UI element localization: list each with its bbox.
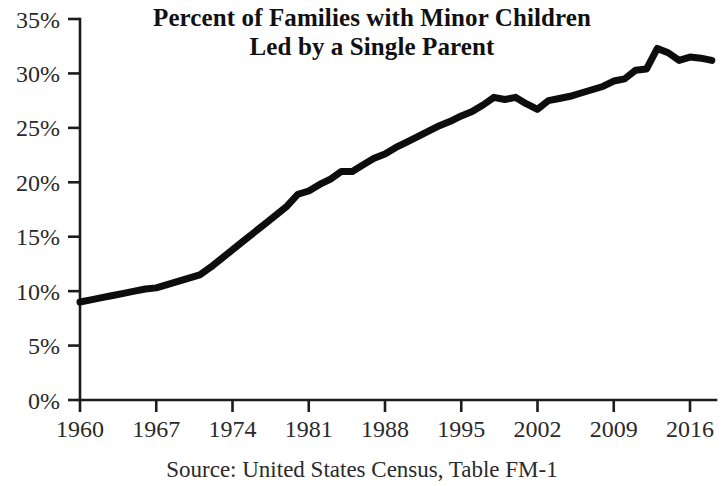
y-tick-label: 10% xyxy=(16,279,60,305)
y-tick-label: 30% xyxy=(16,61,60,87)
x-tick-label: 2002 xyxy=(514,416,562,442)
y-tick-label: 0% xyxy=(28,388,60,414)
chart-figure: Percent of Families with Minor Children … xyxy=(0,0,724,486)
x-axis-tick-labels: 196019671974198119881995200220092016 xyxy=(56,416,714,442)
chart-background xyxy=(0,0,724,486)
x-tick-label: 1995 xyxy=(437,416,485,442)
y-tick-label: 15% xyxy=(16,224,60,250)
y-tick-label: 25% xyxy=(16,115,60,141)
y-tick-label: 20% xyxy=(16,170,60,196)
x-tick-label: 1988 xyxy=(361,416,409,442)
x-tick-label: 2009 xyxy=(590,416,638,442)
x-tick-label: 1960 xyxy=(56,416,104,442)
source-note: Source: United States Census, Table FM-1 xyxy=(166,457,557,482)
x-tick-label: 1981 xyxy=(285,416,333,442)
x-tick-label: 2016 xyxy=(666,416,714,442)
chart-title-line-1: Percent of Families with Minor Children xyxy=(153,4,591,31)
x-tick-label: 1967 xyxy=(132,416,180,442)
y-tick-label: 5% xyxy=(28,333,60,359)
x-tick-label: 1974 xyxy=(209,416,257,442)
y-tick-label: 35% xyxy=(16,7,60,33)
chart-title-line-2: Led by a Single Parent xyxy=(250,33,495,60)
line-chart: Percent of Families with Minor Children … xyxy=(0,0,724,486)
